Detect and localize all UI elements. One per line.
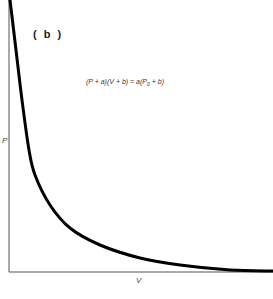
chart-plot	[0, 0, 273, 299]
equation-label: (P + a)(V + b) = a(P0 + b)	[86, 78, 164, 87]
x-axis-label: V	[136, 276, 141, 285]
y-axis-label: P	[2, 136, 7, 145]
pv-curve	[10, 0, 273, 271]
panel-label: ( b )	[33, 28, 63, 40]
